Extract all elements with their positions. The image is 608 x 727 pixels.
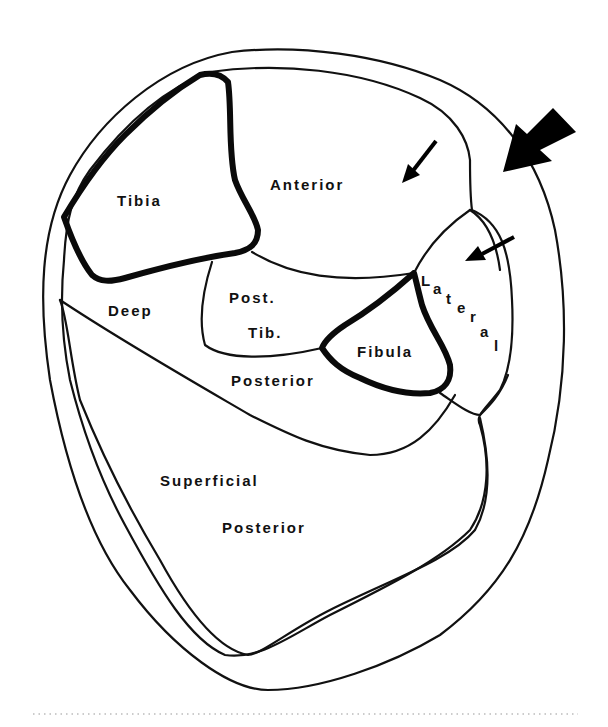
deep-posterior-label: Posterior (231, 372, 315, 389)
svg-text:l: l (494, 337, 500, 354)
fibula-outline (322, 273, 450, 393)
svg-text:a: a (480, 323, 490, 340)
svg-text:a: a (433, 280, 443, 297)
lateral-label: L a t e r a l (421, 272, 500, 354)
post-tib-label-2: Tib. (248, 324, 282, 341)
large-arrow-icon (503, 108, 576, 172)
deep-label: Deep (108, 302, 153, 319)
anterior-lateral-septum (414, 210, 470, 273)
fibula-label: Fibula (357, 343, 413, 360)
superficial-label: Superficial (160, 472, 259, 489)
small-arrow-anterior-icon (402, 141, 436, 183)
skin-outline (43, 49, 564, 690)
svg-text:e: e (457, 299, 467, 316)
svg-text:t: t (446, 290, 453, 307)
post-tib-label-1: Post. (229, 289, 276, 306)
svg-text:L: L (421, 272, 432, 289)
post-tib-boundary (202, 262, 322, 357)
leg-compartment-diagram: Tibia Anterior Deep Post. Tib. Fibula Po… (0, 0, 608, 727)
svg-text:r: r (470, 308, 478, 325)
fascia-outline (62, 68, 513, 656)
anterior-boundary (252, 252, 414, 278)
tibia-outline (64, 74, 258, 281)
anterior-label: Anterior (270, 176, 344, 193)
superficial-posterior-boundary (60, 300, 488, 655)
tibia-label: Tibia (117, 192, 162, 209)
superficial-posterior-label: Posterior (222, 519, 306, 536)
